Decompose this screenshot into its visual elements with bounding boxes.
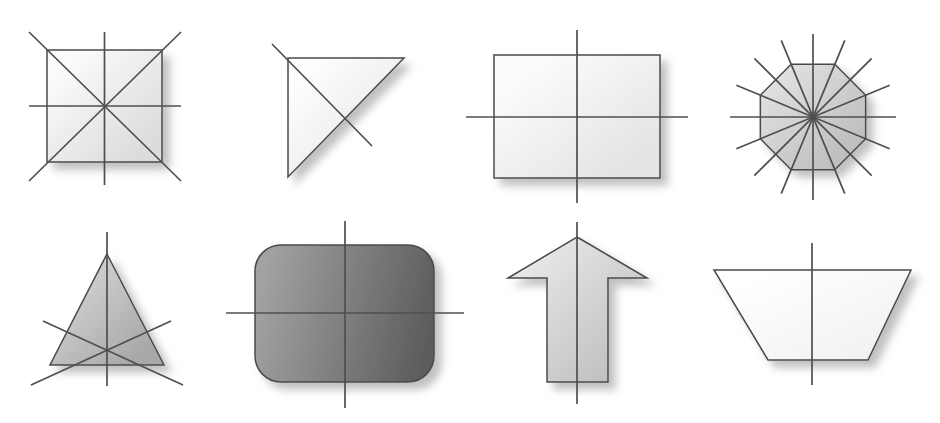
shape-right-triangle: [272, 44, 404, 177]
shape-rounded-rectangle: [226, 221, 464, 408]
shape-rectangle: [466, 30, 688, 203]
shapes-canvas: [0, 0, 940, 423]
shape-body-right-triangle: [288, 58, 404, 177]
shape-octagon: [730, 34, 896, 200]
shape-equilateral-triangle: [31, 232, 183, 386]
shape-up-arrow: [508, 222, 647, 404]
symmetry-shapes-figure: [0, 0, 940, 423]
shape-trapezoid: [714, 243, 911, 385]
shape-square: [29, 32, 181, 185]
